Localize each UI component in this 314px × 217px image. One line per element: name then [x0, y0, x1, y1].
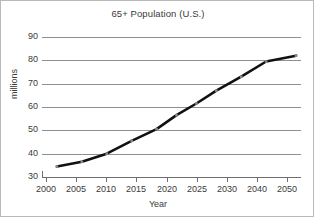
- x-tick-label: 2030: [217, 184, 237, 194]
- y-tick-label: 90: [28, 31, 38, 41]
- x-tick-label: 2020: [157, 184, 177, 194]
- x-tick-label: 2000: [36, 184, 56, 194]
- data-point-marker: [295, 54, 298, 57]
- data-point-marker: [81, 161, 84, 164]
- y-tick-label: 40: [28, 148, 38, 158]
- x-tick-label: 2025: [187, 184, 207, 194]
- y-tick-label: 80: [28, 54, 38, 64]
- data-point-marker: [240, 75, 243, 78]
- x-tick-label: 2005: [66, 184, 86, 194]
- x-tick-label: 2040: [247, 184, 267, 194]
- data-point-marker: [265, 60, 268, 63]
- data-point-marker: [130, 140, 133, 143]
- data-point-marker: [195, 102, 198, 105]
- data-point-marker: [175, 114, 178, 117]
- x-axis-line: [42, 177, 301, 178]
- x-tick-label: 2010: [96, 184, 116, 194]
- y-tick-label: 60: [28, 101, 38, 111]
- series-line: [57, 56, 296, 167]
- data-point-marker: [155, 128, 158, 131]
- y-tick-label: 70: [28, 78, 38, 88]
- x-tick-label: 2015: [126, 184, 146, 194]
- y-tick-label: 50: [28, 124, 38, 134]
- line-series: [42, 37, 301, 177]
- plot-area: 90807060504030 2000200520102015202020252…: [42, 37, 301, 177]
- y-tick-label: 30: [28, 171, 38, 181]
- x-axis-label: Year: [1, 199, 314, 209]
- chart-figure: 65+ Population (U.S.) millions 908070605…: [0, 0, 314, 217]
- y-axis-label: millions: [9, 52, 19, 116]
- data-point-marker: [105, 152, 108, 155]
- chart-title: 65+ Population (U.S.): [1, 8, 314, 19]
- data-point-marker: [56, 165, 59, 168]
- data-point-marker: [215, 89, 218, 92]
- x-tick-label: 2050: [277, 184, 297, 194]
